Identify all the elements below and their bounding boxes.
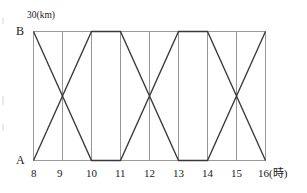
x-tick-label-14: 14: [202, 168, 213, 179]
y-axis-unit-label: 30(km): [27, 11, 55, 21]
x-tick-label-10: 10: [86, 168, 97, 179]
x-axis-end-label: 16(時): [258, 168, 287, 179]
x-tick-label-12: 12: [144, 168, 155, 179]
x-tick-label-11: 11: [115, 168, 126, 179]
x-tick-label-13: 13: [173, 168, 184, 179]
axis-label-b: B: [16, 25, 24, 37]
x-tick-label-15: 15: [231, 168, 242, 179]
graph-canvas: [0, 0, 307, 193]
distance-time-graph: B A 30(km) 16(時) 89101112131415: [0, 0, 307, 193]
axis-label-a: A: [16, 154, 25, 166]
x-tick-label-9: 9: [57, 168, 63, 179]
x-tick-label-8: 8: [31, 168, 37, 179]
